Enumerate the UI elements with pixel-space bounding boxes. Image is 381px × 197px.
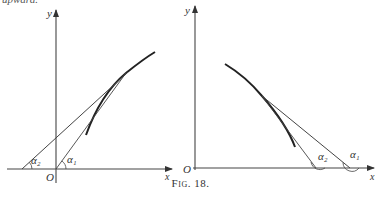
right-alpha2-label: α₂ [318, 150, 328, 162]
figure-18: y x O α₂ α₁ y x O α₂ α₁ [0, 0, 381, 197]
left-alpha2-label: α₂ [31, 154, 41, 166]
left-curve [86, 52, 155, 135]
left-panel: y x O α₂ α₁ [7, 7, 172, 183]
right-secant-alpha2 [262, 96, 316, 168]
left-angle-arc-alpha1 [62, 161, 66, 169]
left-y-label: y [46, 7, 52, 19]
left-alpha1-label: α₁ [67, 153, 77, 165]
right-y-label: y [184, 4, 190, 16]
right-tangent-alpha1 [262, 96, 350, 168]
right-origin-label: O [183, 163, 191, 175]
figure-caption: Fig. 18. [0, 177, 381, 189]
right-curve [225, 64, 295, 147]
right-panel: y x O α₂ α₁ [183, 4, 375, 182]
caption-text: Fig. 18. [172, 177, 210, 189]
right-alpha1-label: α₁ [350, 148, 360, 160]
